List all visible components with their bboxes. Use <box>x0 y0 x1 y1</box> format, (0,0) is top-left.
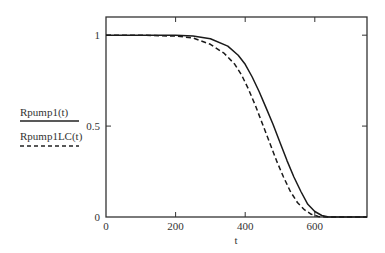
legend-label-rpump1: Rpump1(t) <box>20 106 69 119</box>
y-tick-label: 0 <box>95 211 101 223</box>
x-tick-label: 600 <box>307 220 324 232</box>
x-tick-label: 400 <box>237 220 254 232</box>
series-lines <box>106 35 367 217</box>
axis-ticks: 020040060000.51 <box>86 17 367 232</box>
plot-area-border <box>106 17 367 217</box>
x-tick-label: 0 <box>103 220 109 232</box>
x-axis-label: t <box>234 234 237 246</box>
legend-label-rpump1lc: Rpump1LC(t) <box>20 130 83 143</box>
legend: Rpump1(t) Rpump1LC(t) <box>20 106 83 146</box>
x-tick-label: 200 <box>167 220 184 232</box>
y-tick-label: 1 <box>95 29 101 41</box>
plot-frame <box>106 17 367 217</box>
series-line-rpump1lc-t <box>106 35 367 217</box>
y-tick-label: 0.5 <box>86 120 100 132</box>
chart: 020040060000.51 t Rpump1(t) Rpump1LC(t) <box>0 0 385 253</box>
series-line-rpump1-t <box>106 35 367 217</box>
